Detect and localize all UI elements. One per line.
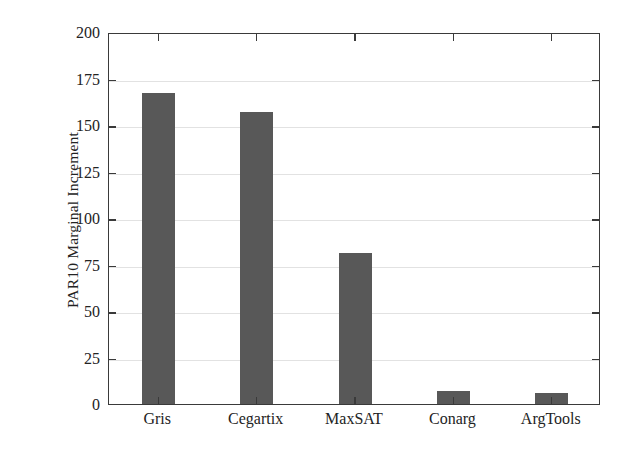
gridline [109,127,599,128]
x-axis-tick-label: ArgTools [502,409,600,429]
x-axis-tick-label: Conarg [403,409,501,429]
x-axis-tick [256,397,257,404]
x-axis-tick-label: Cegartix [206,409,304,429]
y-axis-tick-label: 75 [30,258,100,274]
bar-chart-figure: PAR10 Marginal Increment 025507510012515… [0,0,632,459]
x-axis-tick [158,397,159,404]
y-axis-tick [592,312,599,313]
x-axis-tick-labels: GrisCegartixMaxSATConargArgTools [108,409,600,435]
x-axis-tick [256,34,257,41]
x-axis-tick-label: Gris [108,409,206,429]
bar-gris [142,93,175,404]
y-axis-tick-label: 200 [30,25,100,41]
y-axis-tick-label: 175 [30,72,100,88]
x-axis-tick [158,34,159,41]
y-axis-tick [592,173,599,174]
y-axis-tick [109,266,116,267]
x-axis-tick [453,397,454,404]
y-axis-tick [109,80,116,81]
bar-maxsat [339,253,372,404]
x-axis-tick [354,34,355,41]
y-axis-tick [592,359,599,360]
y-axis-tick-label: 0 [30,397,100,413]
gridline [109,174,599,175]
y-axis-tick [109,312,116,313]
y-axis-tick [109,219,116,220]
y-axis-tick [592,266,599,267]
y-axis-tick-label: 100 [30,211,100,227]
y-axis-tick [592,219,599,220]
y-axis-tick [592,80,599,81]
y-axis-tick [109,359,116,360]
y-axis-tick-label: 125 [30,165,100,181]
x-axis-tick [551,397,552,404]
y-axis-tick [109,173,116,174]
plot-area [108,33,600,405]
gridline [109,220,599,221]
x-axis-tick [354,397,355,404]
y-axis-tick [109,126,116,127]
y-axis-tick [592,126,599,127]
y-axis-tick-label: 25 [30,351,100,367]
gridline [109,81,599,82]
y-axis-tick-labels: 0255075100125150175200 [28,33,100,405]
x-axis-tick [453,34,454,41]
y-axis-tick-label: 150 [30,118,100,134]
y-axis-tick-label: 50 [30,304,100,320]
x-axis-tick-label: MaxSAT [305,409,403,429]
bar-cegartix [240,112,273,404]
x-axis-tick [551,34,552,41]
